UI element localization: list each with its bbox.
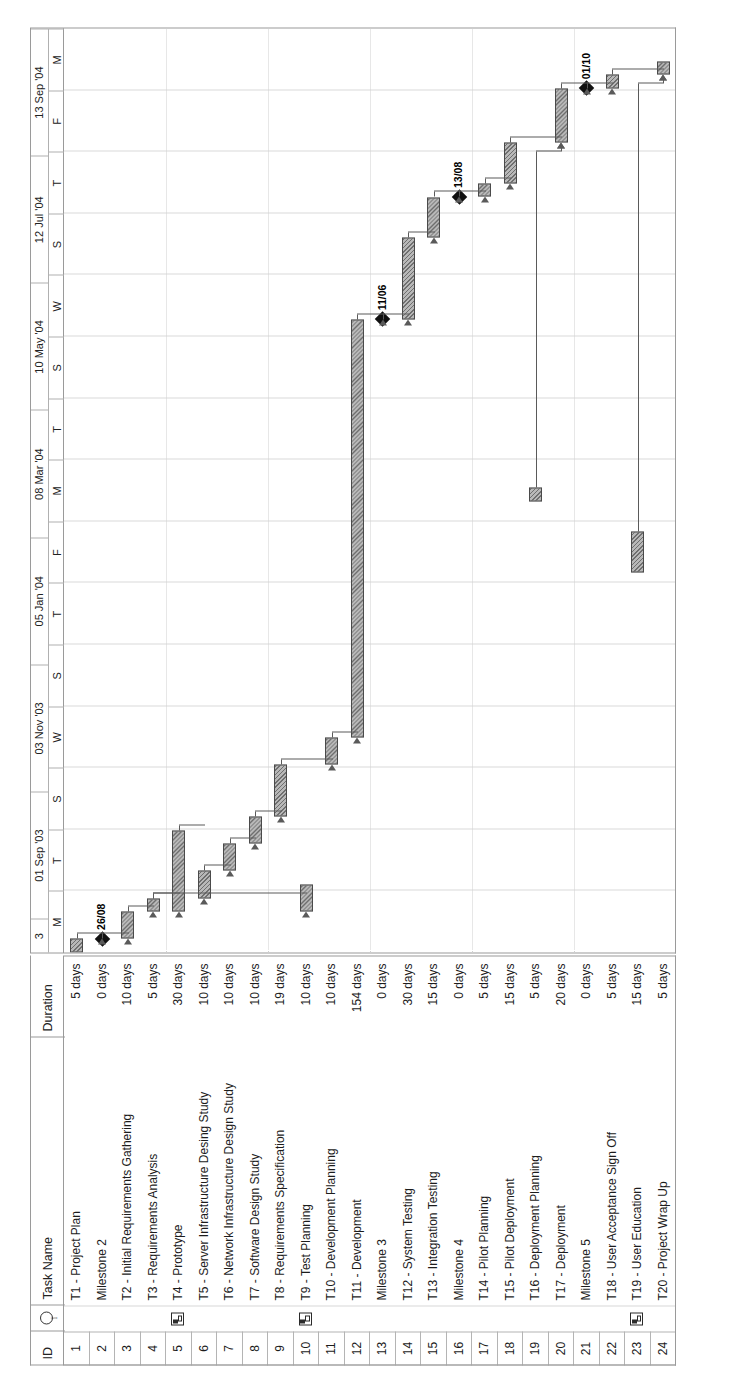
row-indicator[interactable] xyxy=(217,1305,243,1331)
dependency-arrow-icon xyxy=(277,816,285,822)
row-indicator[interactable] xyxy=(115,1305,141,1331)
dependency-arrow-icon xyxy=(506,183,514,189)
dependency-link xyxy=(510,136,561,137)
row-duration: 5 days xyxy=(523,955,549,1037)
gantt-task-bar[interactable] xyxy=(606,74,619,88)
table-row[interactable]: 7T6 - Network Infrastructure Design Stud… xyxy=(217,955,243,1365)
row-indicator[interactable] xyxy=(166,1305,192,1331)
row-indicator[interactable] xyxy=(472,1305,498,1331)
row-indicator[interactable] xyxy=(141,1305,167,1331)
dependency-link xyxy=(434,231,435,232)
row-task-name: T7 - Software Design Study xyxy=(243,1037,269,1305)
dependency-link xyxy=(230,838,231,843)
row-indicator[interactable] xyxy=(294,1305,320,1331)
row-indicator[interactable] xyxy=(370,1305,396,1331)
column-header-indicator[interactable] xyxy=(31,1304,65,1330)
gantt-task-bar[interactable] xyxy=(555,88,568,142)
gantt-task-bar[interactable] xyxy=(657,61,670,75)
table-row[interactable]: 12T11 - Development154 days xyxy=(345,955,371,1365)
gantt-task-bar[interactable] xyxy=(300,884,313,911)
dependency-link xyxy=(332,758,333,759)
table-row[interactable]: 11T10 - Development Planning10 days xyxy=(319,955,345,1365)
table-row[interactable]: 9T8 - Requirements Specification19 days xyxy=(268,955,294,1365)
table-row[interactable]: 3T2 - Initial Requirements Gathering10 d… xyxy=(115,955,141,1365)
note-icon[interactable] xyxy=(630,1312,643,1325)
row-indicator[interactable] xyxy=(90,1305,116,1331)
column-header-task-name[interactable]: Task Name xyxy=(31,1036,65,1304)
table-row[interactable]: 4T3 - Requirements Analysis5 days xyxy=(141,955,167,1365)
dependency-link xyxy=(638,82,664,83)
row-indicator[interactable] xyxy=(600,1305,626,1331)
table-row[interactable]: 18T15 - Pilot Deployment15 days xyxy=(498,955,524,1365)
note-icon[interactable] xyxy=(171,1312,184,1325)
gantt-task-bar[interactable] xyxy=(325,737,338,764)
dependency-arrow-icon xyxy=(200,898,208,904)
dependency-link xyxy=(357,313,383,314)
note-icon[interactable] xyxy=(299,1312,312,1325)
row-indicator[interactable] xyxy=(243,1305,269,1331)
row-indicator[interactable] xyxy=(651,1305,677,1331)
table-row[interactable]: 13Milestone 30 days xyxy=(370,955,396,1365)
row-id: 8 xyxy=(243,1331,269,1365)
table-row[interactable]: 14T12 - System Testing30 days xyxy=(396,955,422,1365)
dependency-link xyxy=(434,191,460,192)
gantt-task-bar[interactable] xyxy=(147,898,160,912)
row-indicator[interactable] xyxy=(64,1305,90,1331)
dependency-arrow-icon xyxy=(302,911,310,917)
row-indicator[interactable] xyxy=(447,1305,473,1331)
gantt-task-bar[interactable] xyxy=(529,487,542,501)
table-row[interactable]: 8T7 - Software Design Study10 days xyxy=(243,955,269,1365)
table-row[interactable]: 2Milestone 20 days xyxy=(90,955,116,1365)
row-indicator[interactable] xyxy=(396,1305,422,1331)
table-row[interactable]: 19T16 - Deployment Planning5 days xyxy=(523,955,549,1365)
row-indicator[interactable] xyxy=(345,1305,371,1331)
gantt-task-bar[interactable] xyxy=(478,183,491,197)
row-indicator[interactable] xyxy=(421,1305,447,1331)
row-task-name: T6 - Network Infrastructure Design Study xyxy=(217,1037,243,1305)
table-row[interactable]: 23T19 - User Education15 days xyxy=(625,955,651,1365)
dependency-link xyxy=(255,837,256,838)
row-indicator[interactable] xyxy=(498,1305,524,1331)
row-indicator[interactable] xyxy=(574,1305,600,1331)
row-duration: 10 days xyxy=(115,955,141,1037)
gantt-task-bar[interactable] xyxy=(274,765,287,817)
table-row[interactable]: 22T18 - User Acceptance Sign Off5 days xyxy=(600,955,626,1365)
table-row[interactable]: 16Milestone 40 days xyxy=(447,955,473,1365)
row-indicator[interactable] xyxy=(625,1305,651,1331)
gantt-task-bar[interactable] xyxy=(223,843,236,870)
gantt-task-bar[interactable] xyxy=(172,830,185,912)
gantt-task-bar[interactable] xyxy=(351,319,364,738)
dependency-arrow-icon xyxy=(379,319,387,325)
gantt-task-bar[interactable] xyxy=(402,237,415,319)
row-indicator[interactable] xyxy=(319,1305,345,1331)
gantt-task-bar[interactable] xyxy=(249,816,262,843)
dependency-link xyxy=(306,892,307,893)
table-row[interactable]: 21Milestone 50 days xyxy=(574,955,600,1365)
table-row[interactable]: 20T17 - Deployment20 days xyxy=(549,955,575,1365)
gantt-task-bar[interactable] xyxy=(70,938,83,952)
dependency-link xyxy=(128,932,129,933)
gantt-task-bar[interactable] xyxy=(121,911,134,938)
row-id: 6 xyxy=(192,1331,218,1365)
table-row[interactable]: 15T13 - Integration Testing15 days xyxy=(421,955,447,1365)
column-header-id[interactable]: ID xyxy=(31,1330,65,1364)
row-duration: 5 days xyxy=(472,955,498,1037)
table-row[interactable]: 24T20 - Project Wrap Up5 days xyxy=(651,955,677,1365)
table-header-row: ID Task Name Duration xyxy=(30,955,64,1365)
row-indicator[interactable] xyxy=(549,1305,575,1331)
table-row[interactable]: 5T4 - Prototype30 days xyxy=(166,955,192,1365)
gantt-chart-area: 301 Sep '0303 Nov '0305 Jan '0408 Mar '0… xyxy=(30,27,702,953)
gantt-task-bar[interactable] xyxy=(198,870,211,897)
dependency-arrow-icon xyxy=(583,88,591,94)
dependency-link xyxy=(561,83,562,88)
row-indicator[interactable] xyxy=(268,1305,294,1331)
table-row[interactable]: 1T1 - Project Plan5 days xyxy=(64,955,90,1365)
gantt-task-bar[interactable] xyxy=(631,531,644,572)
table-row[interactable]: 10T9 - Test Planning10 days xyxy=(294,955,320,1365)
row-indicator[interactable] xyxy=(523,1305,549,1331)
column-header-duration[interactable]: Duration xyxy=(31,954,65,1036)
row-indicator[interactable] xyxy=(192,1305,218,1331)
row-task-name: T3 - Requirements Analysis xyxy=(141,1037,167,1305)
table-row[interactable]: 6T5 - Server Infrastructure Desing Study… xyxy=(192,955,218,1365)
table-row[interactable]: 17T14 - Pilot Planning5 days xyxy=(472,955,498,1365)
